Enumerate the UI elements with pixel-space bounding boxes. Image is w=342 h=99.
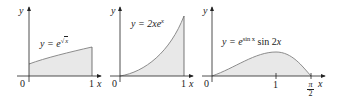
tick-label-1: 1 [181,79,186,89]
area-fill [212,52,311,76]
equation-label: y = esin x sin 2x [222,37,281,47]
tick-label-1: 1 [273,80,278,90]
x-axis-label: x [97,79,101,89]
equation-label: y = e√x [40,39,68,49]
equation-label: y = 2xex [131,19,164,29]
origin-label: 0 [20,79,25,89]
x-axis-label: x [189,79,193,89]
y-axis-label: y [111,6,115,16]
tick-label-pi-half: π2 [307,79,314,98]
y-axis-label: y [203,6,207,16]
origin-label: 0 [112,79,117,89]
figure-canvas [0,0,342,99]
x-axis-label: x [318,79,322,89]
area-fill [29,47,92,76]
y-axis-label: y [19,6,23,16]
tick-label-1: 1 [89,79,94,89]
origin-label: 0 [204,79,209,89]
